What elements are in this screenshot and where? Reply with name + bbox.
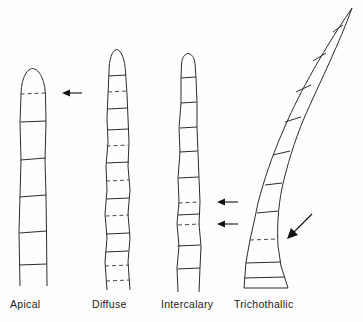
diffuse-dashed-wall-3 xyxy=(106,180,130,181)
trichothallic-dashed-wall xyxy=(250,239,278,240)
apical-dashed-wall xyxy=(21,93,46,94)
apical-solid-wall-4 xyxy=(20,231,47,233)
intercalary-outline xyxy=(177,54,201,293)
diagram-canvas: .wall { stroke: #2b2b2b; stroke-width: 1… xyxy=(0,0,363,322)
intercalary-solid-wall-7 xyxy=(178,245,201,246)
panel-label-intercalary: Intercalary xyxy=(161,298,213,310)
panel-trichothallic xyxy=(244,8,352,288)
apical-solid-wall-1 xyxy=(21,121,47,122)
diffuse-solid-wall-6 xyxy=(106,233,130,234)
trichothallic-solid-wall-4 xyxy=(285,117,301,122)
filament-growth-diagram: .wall { stroke: #2b2b2b; stroke-width: 1… xyxy=(0,0,363,322)
diffuse-solid-wall-1 xyxy=(109,75,126,76)
diffuse-solid-wall-7 xyxy=(106,251,129,252)
panel-intercalary xyxy=(177,54,238,293)
diffuse-dashed-wall-4 xyxy=(106,215,130,216)
trichothallic-solid-wall-9 xyxy=(244,277,285,278)
apical-outline xyxy=(19,69,47,287)
trichothallic-solid-wall-1 xyxy=(333,25,343,32)
intercalary-growth-arrow-lower xyxy=(217,221,238,228)
diffuse-solid-wall-2 xyxy=(108,108,127,109)
intercalary-solid-wall-6 xyxy=(178,214,200,215)
trichothallic-outline xyxy=(244,8,352,288)
diffuse-solid-wall-4 xyxy=(107,162,130,163)
panel-apical xyxy=(19,69,82,287)
panel-label-trichothallic: Trichothallic xyxy=(234,298,294,310)
diffuse-solid-wall-5 xyxy=(107,198,130,199)
diffuse-outline xyxy=(105,50,130,291)
panel-diffuse xyxy=(105,50,130,291)
intercalary-solid-wall-8 xyxy=(178,268,201,269)
diffuse-dashed-wall-6 xyxy=(106,280,130,281)
trichothallic-solid-wall-8 xyxy=(246,262,281,263)
panel-label-diffuse: Diffuse xyxy=(92,298,127,310)
intercalary-solid-wall-3 xyxy=(180,127,197,128)
intercalary-solid-wall-1 xyxy=(181,77,196,78)
diffuse-dashed-wall-1 xyxy=(108,91,127,92)
diffuse-dashed-wall-5 xyxy=(105,265,129,266)
diffuse-dashed-wall-2 xyxy=(107,145,129,146)
panel-label-apical: Apical xyxy=(10,298,40,310)
intercalary-growth-arrow-upper xyxy=(217,199,238,206)
trichothallic-solid-wall-3 xyxy=(296,85,311,92)
intercalary-solid-wall-5 xyxy=(179,177,200,178)
trichothallic-growth-arrow xyxy=(287,214,312,239)
apical-solid-wall-3 xyxy=(20,195,47,197)
apical-solid-wall-5 xyxy=(19,264,47,265)
trichothallic-solid-wall-5 xyxy=(273,151,290,155)
apical-solid-wall-2 xyxy=(21,158,46,160)
trichothallic-solid-wall-6 xyxy=(265,183,282,185)
apical-growth-arrow xyxy=(62,90,82,97)
intercalary-solid-wall-4 xyxy=(180,151,198,152)
intercalary-dashed-wall-1 xyxy=(179,202,200,203)
trichothallic-solid-wall-7 xyxy=(257,211,278,213)
diffuse-solid-wall-3 xyxy=(107,129,128,130)
intercalary-dashed-wall-2 xyxy=(178,224,200,225)
intercalary-solid-wall-2 xyxy=(181,102,197,103)
